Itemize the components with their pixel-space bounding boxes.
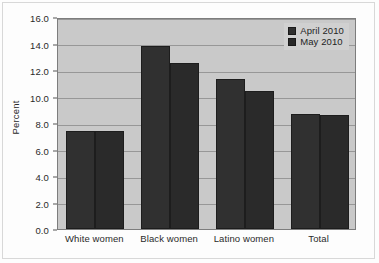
legend-swatch-icon xyxy=(288,38,296,46)
legend-item: April 2010 xyxy=(288,25,344,36)
bar xyxy=(170,63,199,229)
legend-item-label: May 2010 xyxy=(300,36,343,47)
y-axis-tick-label: 14.0 xyxy=(30,39,49,50)
bar-series-group xyxy=(58,19,355,229)
bar xyxy=(291,114,320,229)
x-axis-tick-label: Latino women xyxy=(214,233,274,244)
legend-item-label: April 2010 xyxy=(300,25,344,36)
chart-figure: Percent 0.02.04.06.08.010.012.014.016.0 … xyxy=(0,0,379,263)
y-axis-tick-label: 12.0 xyxy=(30,66,49,77)
x-axis-tick-label: Total xyxy=(308,233,329,244)
y-axis-tick-label: 8.0 xyxy=(35,119,49,130)
y-axis-tick-label: 4.0 xyxy=(35,172,49,183)
x-axis-tick-label: White women xyxy=(65,233,124,244)
bar xyxy=(245,91,274,229)
bar-group xyxy=(215,18,275,229)
y-axis-tick-label: 10.0 xyxy=(30,92,49,103)
plot-area: April 2010May 2010 xyxy=(57,18,356,230)
y-axis-tick-labels: 0.02.04.06.08.010.012.014.016.0 xyxy=(14,18,53,230)
legend-item: May 2010 xyxy=(288,36,344,47)
legend-swatch-icon xyxy=(288,27,296,35)
bar xyxy=(66,131,95,229)
bar xyxy=(216,79,245,229)
x-axis-tick-label: Black women xyxy=(140,233,198,244)
chart-legend: April 2010May 2010 xyxy=(284,23,349,50)
y-axis-tick-label: 16.0 xyxy=(30,13,49,24)
bar xyxy=(320,115,349,229)
bar-group xyxy=(140,18,200,229)
bar-group xyxy=(65,18,125,229)
y-axis-tick-label: 0.0 xyxy=(35,225,49,236)
bar xyxy=(141,46,170,229)
y-axis-tick-label: 6.0 xyxy=(35,145,49,156)
x-axis-tick-labels: White womenBlack womenLatino womenTotal xyxy=(57,233,356,249)
y-axis-tick-label: 2.0 xyxy=(35,198,49,209)
bar xyxy=(95,131,124,229)
